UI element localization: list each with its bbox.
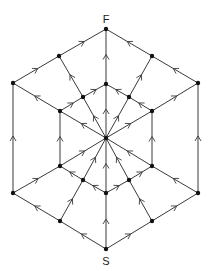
edge-S-BL <box>60 221 106 249</box>
edge-OR1-TR <box>152 56 198 83</box>
edge-IB-ILR <box>106 180 129 193</box>
edge-BR-ILR <box>129 180 152 221</box>
edge-MR2-C <box>106 138 152 166</box>
node-IUR <box>127 95 131 99</box>
edge-OL1-TL <box>13 56 59 83</box>
edge-IUL-IT <box>83 84 106 97</box>
node-OL2 <box>11 191 15 195</box>
edge-ILR-MR2 <box>129 166 152 180</box>
node-TR <box>150 54 154 58</box>
node-MR2 <box>150 164 154 168</box>
edge-ILR-C <box>106 138 129 180</box>
node-ILL <box>81 178 85 182</box>
node-IB <box>104 191 108 195</box>
edge-C-ML1 <box>60 111 106 138</box>
label-sink-F: F <box>103 13 110 25</box>
node-BR <box>150 219 154 223</box>
edge-ML1-IUL <box>60 97 83 111</box>
edge-C-IUR <box>106 97 129 138</box>
label-source-S: S <box>102 255 109 267</box>
node-OR1 <box>196 81 200 85</box>
edge-C-IUL <box>83 97 106 138</box>
edge-ILL-ML2 <box>60 166 83 180</box>
edge-IB-ILL <box>83 180 106 193</box>
node-ML2 <box>58 164 62 168</box>
directed-graph: F S <box>0 0 208 271</box>
node-TL <box>57 54 61 58</box>
node-BL <box>58 219 62 223</box>
edge-OR2-MR2 <box>152 166 198 193</box>
node-ILR <box>127 178 131 182</box>
edge-OL2-ML2 <box>13 166 60 193</box>
edge-IUL-TL <box>59 56 83 97</box>
edge-C-MR1 <box>106 111 152 138</box>
edge-ML2-C <box>60 138 106 166</box>
edge-IUR-IT <box>106 84 129 97</box>
node-S <box>104 247 108 251</box>
edge-BR-OR2 <box>152 193 198 221</box>
node-MR1 <box>150 109 154 113</box>
edge-BL-OL2 <box>13 193 60 221</box>
edge-BL-ILL <box>60 180 83 221</box>
edge-IUR-TR <box>129 56 152 97</box>
edge-S-BR <box>106 221 152 249</box>
node-OL1 <box>11 81 15 85</box>
edge-TL-F <box>59 29 106 56</box>
node-F <box>104 27 108 31</box>
edge-TR-F <box>106 29 152 56</box>
edge-ILL-C <box>83 138 106 180</box>
node-IT <box>104 82 108 86</box>
edge-ML1-OL1 <box>13 83 60 111</box>
node-ML1 <box>58 109 62 113</box>
edge-MR1-IUR <box>129 97 152 111</box>
node-C <box>104 136 108 140</box>
node-OR2 <box>196 191 200 195</box>
edge-MR1-OR1 <box>152 83 198 111</box>
node-IUL <box>81 95 85 99</box>
